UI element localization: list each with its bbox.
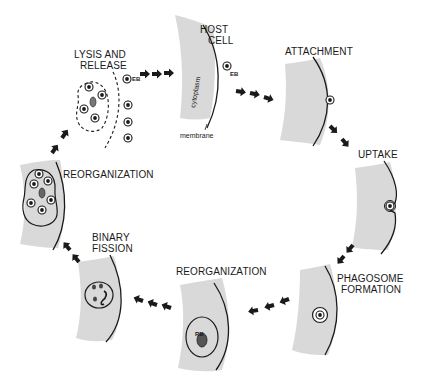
attachment-label: ATTACHMENT xyxy=(285,46,353,57)
arrows-host-to-attachment xyxy=(235,87,275,105)
stage-attachment: ATTACHMENT xyxy=(280,46,353,146)
arrows-reorg-eb-to-lysis xyxy=(48,127,71,155)
rb-label: RB xyxy=(195,331,204,337)
arrows-reorg-to-fission xyxy=(132,293,172,312)
stage-binary-fission: BINARY FISSION xyxy=(76,232,133,342)
arrows-phagosome-to-reorg-rb xyxy=(247,295,290,316)
host-cell-label-1: HOST xyxy=(200,24,228,35)
eb-label-host: EB xyxy=(230,71,239,77)
arrows-uptake-to-phagosome xyxy=(334,242,356,266)
eb-attached xyxy=(326,96,334,104)
chlamydia-cycle-diagram: HOST CELL cytoplasm membrane EB ATTACHME… xyxy=(0,0,427,384)
released-eb xyxy=(123,75,131,83)
stage-phagosome-formation: PHAGOSOME FORMATION xyxy=(292,264,404,355)
reorg-eb-label: REORGANIZATION xyxy=(63,169,154,180)
phagosome-label-2: FORMATION xyxy=(341,284,401,295)
uptake-label: UPTAKE xyxy=(358,149,398,160)
eb-uptake xyxy=(386,202,394,210)
lysis-label-2: RELEASE xyxy=(80,60,127,71)
fission-label-2: FISSION xyxy=(92,243,133,254)
lysis-label-1: LYSIS AND xyxy=(74,49,126,60)
stage-uptake: UPTAKE xyxy=(352,149,398,254)
ruptured-membrane xyxy=(105,72,119,148)
host-cell-label-2: CELL xyxy=(208,35,234,46)
fission-label-1: BINARY xyxy=(92,232,130,243)
reorg-rb-label: REORGANIZATION xyxy=(176,266,267,277)
stage-lysis-and-release: EB LYSIS AND RELEASE xyxy=(74,49,141,148)
membrane-pointer xyxy=(205,124,207,130)
stage-reorganization-rb: RB REORGANIZATION xyxy=(176,266,267,371)
stage-host-cell: HOST CELL cytoplasm membrane EB xyxy=(175,15,239,139)
phagosome-label-1: PHAGOSOME xyxy=(337,273,404,284)
arrows-lysis-to-host xyxy=(140,69,174,79)
eb-phagosome xyxy=(316,311,324,319)
eb-particle xyxy=(223,62,231,70)
arrows-fission-to-reorg-eb xyxy=(60,239,82,264)
stage-reorganization-eb: REORGANIZATION xyxy=(20,160,154,250)
membrane-label: membrane xyxy=(180,132,214,139)
arrows-attachment-to-uptake xyxy=(327,123,352,150)
eb-label-lysis: EB xyxy=(132,76,141,82)
